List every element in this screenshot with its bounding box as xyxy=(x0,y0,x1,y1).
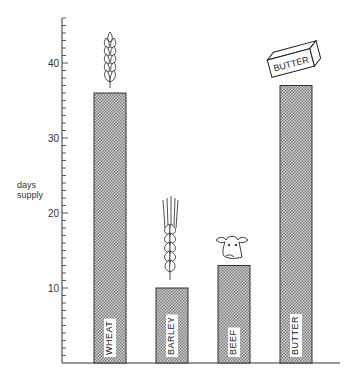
cow-head-icon xyxy=(216,236,248,258)
bar-label: WHEAT xyxy=(104,321,114,355)
barley-icon xyxy=(163,196,178,280)
bar-beef: BEEF xyxy=(218,266,250,364)
bar-barley: BARLEY xyxy=(156,288,188,363)
bar-label: BEEF xyxy=(228,329,238,355)
bar-label: BUTTER xyxy=(290,316,300,355)
y-tick-label: 30 xyxy=(48,133,60,144)
bar-label: BARLEY xyxy=(166,316,176,355)
bar-wheat: WHEAT xyxy=(94,93,126,363)
y-tick-label: 40 xyxy=(48,58,60,69)
bars: WHEATBARLEYBEEFBUTTER xyxy=(94,86,312,364)
butter-icon: BUTTER xyxy=(266,41,322,78)
bar-chart: 10203040 WHEATBARLEYBEEFBUTTER xyxy=(0,0,360,382)
wheat-icon xyxy=(104,32,115,88)
bar-butter: BUTTER xyxy=(280,86,312,364)
y-tick-label: 20 xyxy=(48,208,60,219)
y-tick-label: 10 xyxy=(48,283,60,294)
